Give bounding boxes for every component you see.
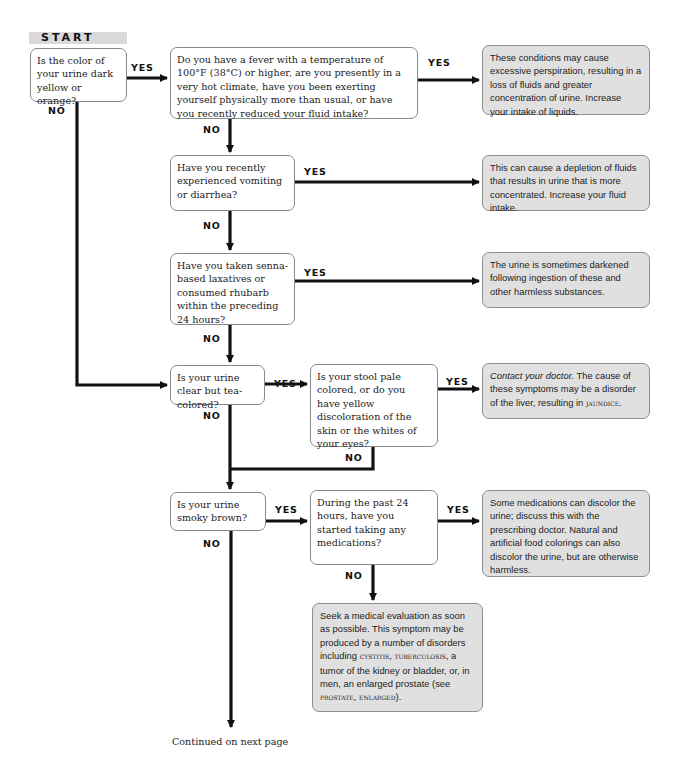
result-harmless-substances: The urine is sometimes darkened followin…	[482, 252, 650, 308]
start-label: START	[29, 32, 127, 44]
link-tuberculosis[interactable]: tuberculosis	[394, 651, 446, 661]
result-medications-discolor: Some medications can discolor the urine;…	[482, 490, 650, 577]
result-text-end: .	[619, 397, 622, 408]
no-label-q4: NO	[203, 333, 221, 344]
yes-label-q5: YES	[274, 378, 297, 389]
result-contact-doctor-liver: Contact your doctor. The cause of these …	[482, 363, 650, 419]
yes-label-q6: YES	[446, 376, 469, 387]
yes-label-q1: YES	[131, 62, 154, 73]
question-tea-colored: Is your urine clear but tea-colored?	[170, 365, 265, 405]
no-label-q6: NO	[345, 452, 363, 463]
no-label-q5: NO	[203, 410, 221, 421]
no-label-q1: NO	[48, 105, 66, 116]
yes-label-q4: YES	[304, 267, 327, 278]
question-vomiting-diarrhea: Have you recently experienced vomiting o…	[170, 155, 295, 211]
result-seek-medical-evaluation: Seek a medical evaluation as soon as pos…	[312, 603, 483, 712]
result-fluid-depletion: This can cause a depletion of fluids tha…	[482, 155, 650, 211]
yes-label-q2: YES	[428, 57, 451, 68]
no-label-q8: NO	[345, 570, 363, 581]
link-prostate-enlarged[interactable]: prostate, enlarged	[320, 692, 396, 702]
yes-label-q7: YES	[275, 504, 298, 515]
no-label-q7: NO	[203, 538, 221, 549]
question-senna-rhubarb: Have you taken senna-based laxatives or …	[170, 253, 295, 325]
result-text-end: ).	[396, 691, 402, 702]
question-new-medications: During the past 24 hours, have you start…	[310, 490, 438, 565]
question-smoky-brown: Is your urine smoky brown?	[170, 492, 266, 531]
no-label-q3: NO	[203, 220, 221, 231]
yes-label-q8: YES	[447, 504, 470, 515]
no-label-q2: NO	[203, 124, 221, 135]
result-excessive-perspiration: These conditions may cause excessive per…	[482, 45, 650, 115]
emphasis-contact-doctor: Contact your doctor.	[490, 370, 574, 381]
question-fever-heat-exertion: Do you have a fever with a temperature o…	[170, 47, 418, 119]
question-urine-dark-yellow: Is the color of your urine dark yellow o…	[30, 48, 127, 102]
link-cystitis[interactable]: cystitis	[360, 651, 390, 661]
question-pale-stool-yellow-skin: Is your stool pale colored, or do you ha…	[310, 364, 438, 447]
link-jaundice[interactable]: jaundice	[586, 398, 619, 408]
continued-on-next-page: Continued on next page	[172, 736, 288, 747]
yes-label-q3: YES	[304, 166, 327, 177]
